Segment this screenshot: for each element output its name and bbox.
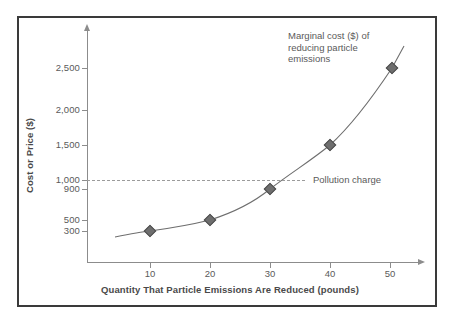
x-axis-arrow-icon [418,259,425,265]
x-tick-label-30: 30 [250,268,290,279]
y-tick-label-300: 300 [20,225,80,236]
y-axis-line [87,30,88,263]
y-tick-300 [82,231,88,232]
y-axis-arrow-icon [84,24,90,31]
y-tick-1500 [82,145,88,146]
pollution-charge-line [87,180,305,181]
y-tick-900 [82,189,88,190]
pollution-charge-label: Pollution charge [313,174,381,185]
data-point-20-500 [204,214,217,227]
chart-figure: 2,500 2,000 1,500 1,000 900 500 300 10 2… [0,0,462,324]
x-tick-label-20: 20 [190,268,230,279]
annotation-line-3: emissions [288,53,433,65]
y-tick-2000 [82,110,88,111]
x-tick-label-50: 50 [370,268,410,279]
marginal-cost-annotation: Marginal cost ($) of reducing particle e… [288,30,433,65]
data-point-40-1500 [324,139,337,152]
y-tick-2500 [82,68,88,69]
y-axis-title: Cost or Price ($) [24,91,35,221]
plot-area: 2,500 2,000 1,500 1,000 900 500 300 10 2… [0,0,462,324]
data-point-10-300 [144,225,157,238]
x-axis-title: Quantity That Particle Emissions Are Red… [60,284,400,295]
x-tick-label-10: 10 [130,268,170,279]
annotation-line-1: Marginal cost ($) of [288,30,433,42]
annotation-line-2: reducing particle [288,42,433,54]
y-tick-500 [82,220,88,221]
y-tick-label-2500: 2,500 [20,62,80,73]
x-axis-line [87,262,420,263]
data-point-30-900 [264,183,277,196]
x-tick-label-40: 40 [310,268,350,279]
